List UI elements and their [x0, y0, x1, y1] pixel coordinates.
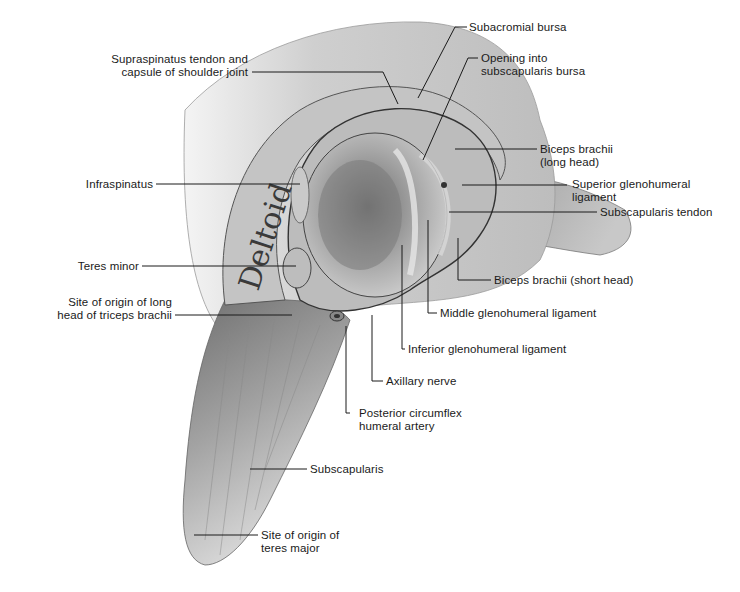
label-inferior-gh-ligament: Inferior glenohumeral ligament	[408, 343, 566, 356]
label-subacromial-bursa: Subacromial bursa	[469, 21, 567, 34]
label-triceps-origin: Site of origin of long head of triceps b…	[20, 296, 172, 322]
teres-minor-section	[283, 248, 311, 288]
label-posterior-circumflex-artery: Posterior circumflex humeral artery	[359, 407, 462, 433]
label-superior-gh-ligament: Superior glenohumeral ligament	[572, 178, 690, 204]
label-axillary-nerve: Axillary nerve	[386, 375, 456, 388]
label-biceps-long-head: Biceps brachii (long head)	[540, 143, 613, 169]
label-infraspinatus: Infraspinatus	[40, 178, 153, 191]
label-teres-major-origin: Site of origin of teres major	[261, 529, 339, 555]
label-opening-subscapularis-bursa: Opening into subscapularis bursa	[481, 52, 585, 78]
subscapularis-muscle	[183, 300, 350, 565]
label-teres-minor: Teres minor	[40, 260, 139, 273]
label-middle-gh-ligament: Middle glenohumeral ligament	[440, 307, 596, 320]
label-subscapularis-tendon: Subscapularis tendon	[600, 206, 713, 219]
label-subscapularis: Subscapularis	[310, 463, 384, 476]
label-biceps-short-head: Biceps brachii (short head)	[494, 274, 634, 287]
label-supraspinatus-tendon: Supraspinatus tendon and capsule of shou…	[100, 53, 248, 79]
